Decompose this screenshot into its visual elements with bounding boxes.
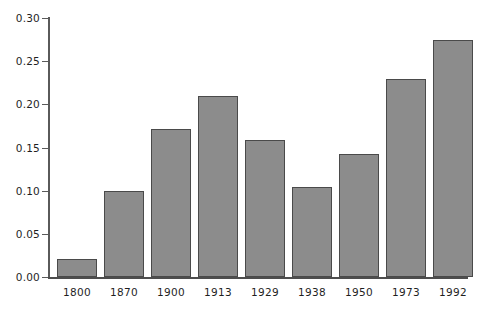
x-axis-tick-label: 1950	[339, 287, 379, 298]
bar	[151, 129, 191, 277]
bar-group	[104, 191, 144, 277]
x-axis-tick-label: 1913	[198, 287, 238, 298]
bar-chart: 0.000.050.100.150.200.250.30 18001870190…	[0, 0, 481, 312]
bar	[433, 40, 473, 277]
bar-group	[292, 187, 332, 277]
x-axis-tick-label: 1938	[292, 287, 332, 298]
x-axis-tick-label: 1870	[104, 287, 144, 298]
bar-group	[245, 140, 285, 277]
bar	[292, 187, 332, 277]
bar-group	[386, 79, 426, 277]
bar-group	[433, 40, 473, 277]
bars-layer: 180018701900191319291938195019731992	[0, 0, 481, 312]
x-axis-tick-label: 1973	[386, 287, 426, 298]
bar	[339, 154, 379, 277]
bar-group	[339, 154, 379, 277]
bar-group	[57, 259, 97, 277]
x-axis-tick-label: 1800	[57, 287, 97, 298]
bar	[198, 96, 238, 277]
bar-group	[198, 96, 238, 277]
bar	[245, 140, 285, 277]
x-axis-tick-label: 1992	[433, 287, 473, 298]
bar	[386, 79, 426, 277]
bar-group	[151, 129, 191, 277]
bar	[104, 191, 144, 277]
bar	[57, 259, 97, 277]
x-axis-tick-label: 1929	[245, 287, 285, 298]
x-axis-tick-label: 1900	[151, 287, 191, 298]
